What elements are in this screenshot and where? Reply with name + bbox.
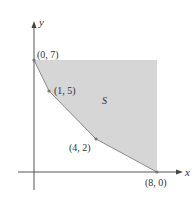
vertex-point <box>155 170 158 173</box>
y-axis-label: y <box>38 16 44 28</box>
region-label: S <box>102 95 107 106</box>
vertex-label-0-7: (0, 7) <box>37 49 59 61</box>
vertex-label-1-5: (1, 5) <box>54 85 76 97</box>
region-s <box>34 60 157 172</box>
vertex-point <box>47 89 50 92</box>
vertex-label-4-2: (4, 2) <box>69 142 91 154</box>
vertex-point <box>94 137 97 140</box>
y-axis-arrow-icon <box>32 21 37 28</box>
x-axis-label: x <box>184 166 190 178</box>
region-diagram: y x S (0, 7) (1, 5) (4, 2) (8, 0) <box>0 0 195 205</box>
vertex-point <box>32 58 35 61</box>
vertex-label-8-0: (8, 0) <box>145 177 167 189</box>
x-axis-arrow-icon <box>176 170 183 175</box>
